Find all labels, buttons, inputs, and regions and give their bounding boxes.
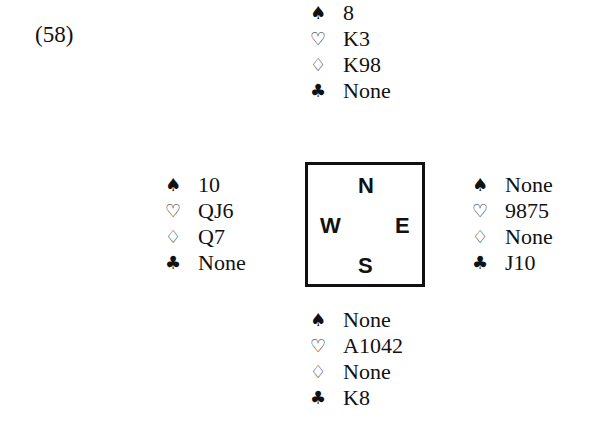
south-hearts-row: ♡ A1042 (310, 333, 403, 359)
east-clubs-row: ♣ J10 (472, 250, 553, 276)
south-hearts: A1042 (343, 333, 403, 359)
diamond-icon: ♢ (472, 224, 505, 250)
south-clubs-row: ♣ K8 (310, 385, 403, 411)
heart-icon: ♡ (310, 333, 343, 359)
north-spades: 8 (343, 0, 354, 26)
east-spades-row: ♠ None (472, 172, 553, 198)
east-hearts: 9875 (505, 198, 549, 224)
west-spades: 10 (198, 172, 220, 198)
club-icon: ♣ (310, 78, 343, 104)
north-hearts: K3 (343, 26, 370, 52)
north-diamonds-row: ♢ K98 (310, 52, 391, 78)
diamond-icon: ♢ (310, 52, 343, 78)
heart-icon: ♡ (165, 198, 198, 224)
problem-number: (58) (35, 22, 73, 48)
west-hand: ♠ 10 ♡ QJ6 ♢ Q7 ♣ None (165, 172, 246, 276)
east-clubs: J10 (505, 250, 536, 276)
spade-icon: ♠ (310, 307, 343, 333)
north-hand: ♠ 8 ♡ K3 ♢ K98 ♣ None (310, 0, 391, 104)
west-diamonds-row: ♢ Q7 (165, 224, 246, 250)
west-hearts: QJ6 (198, 198, 233, 224)
heart-icon: ♡ (472, 198, 505, 224)
west-spades-row: ♠ 10 (165, 172, 246, 198)
north-diamonds: K98 (343, 52, 381, 78)
south-spades: None (343, 307, 391, 333)
south-clubs: K8 (343, 385, 370, 411)
south-hand: ♠ None ♡ A1042 ♢ None ♣ K8 (310, 307, 403, 411)
heart-icon: ♡ (310, 26, 343, 52)
compass-south: S (358, 253, 373, 279)
north-hearts-row: ♡ K3 (310, 26, 391, 52)
spade-icon: ♠ (472, 172, 505, 198)
north-clubs: None (343, 78, 391, 104)
east-hand: ♠ None ♡ 9875 ♢ None ♣ J10 (472, 172, 553, 276)
spade-icon: ♠ (310, 0, 343, 26)
diamond-icon: ♢ (165, 224, 198, 250)
west-diamonds: Q7 (198, 224, 225, 250)
north-clubs-row: ♣ None (310, 78, 391, 104)
club-icon: ♣ (165, 250, 198, 276)
north-spades-row: ♠ 8 (310, 0, 391, 26)
compass-north: N (358, 173, 374, 199)
west-hearts-row: ♡ QJ6 (165, 198, 246, 224)
west-clubs-row: ♣ None (165, 250, 246, 276)
south-spades-row: ♠ None (310, 307, 403, 333)
club-icon: ♣ (310, 385, 343, 411)
east-hearts-row: ♡ 9875 (472, 198, 553, 224)
compass-east: E (395, 213, 410, 239)
diamond-icon: ♢ (310, 359, 343, 385)
compass-box: N W E S (305, 162, 425, 287)
club-icon: ♣ (472, 250, 505, 276)
compass-west: W (320, 213, 341, 239)
east-diamonds-row: ♢ None (472, 224, 553, 250)
spade-icon: ♠ (165, 172, 198, 198)
east-spades: None (505, 172, 553, 198)
west-clubs: None (198, 250, 246, 276)
south-diamonds: None (343, 359, 391, 385)
east-diamonds: None (505, 224, 553, 250)
south-diamonds-row: ♢ None (310, 359, 403, 385)
